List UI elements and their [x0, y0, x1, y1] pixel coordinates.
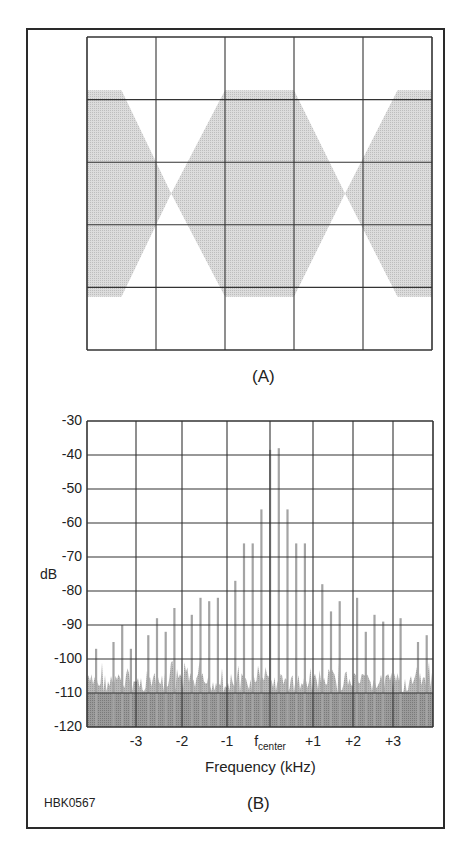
x-tick-label: -3 [116, 733, 156, 749]
spectral-line [234, 581, 236, 727]
spectral-line [304, 543, 306, 727]
spectral-line [130, 649, 132, 727]
y-tick-label: -80 [32, 582, 82, 598]
spectral-line [95, 649, 97, 727]
figure-id-label: HBK0567 [44, 796, 95, 810]
spectral-line [382, 622, 384, 727]
spectral-line [426, 635, 428, 727]
y-tick-label: -30 [32, 412, 82, 428]
spectral-line [173, 608, 175, 727]
spectral-line [295, 543, 297, 727]
spectral-line [121, 625, 123, 727]
spectral-line [356, 598, 358, 727]
spectral-line [112, 642, 114, 727]
y-tick-label: -90 [32, 616, 82, 632]
spectral-line [156, 618, 158, 727]
spectral-line [339, 601, 341, 727]
spectral-line [330, 611, 332, 727]
spectral-line [147, 635, 149, 727]
y-tick-label: -120 [32, 718, 82, 734]
spectral-line [243, 543, 245, 727]
x-tick-label: +3 [373, 733, 413, 749]
spectral-line [260, 509, 262, 727]
x-tick-label: +2 [333, 733, 373, 749]
spectral-line [373, 615, 375, 727]
panel-a-envelope-plot [87, 37, 432, 350]
y-tick-label: -100 [32, 650, 82, 666]
y-tick-label: -110 [32, 684, 82, 700]
floor-fill [87, 693, 433, 727]
x-tick-label: -2 [162, 733, 202, 749]
y-tick-label: -60 [32, 514, 82, 530]
panel-b-x-axis-label: Frequency (kHz) [205, 758, 316, 775]
spectral-line [321, 584, 323, 727]
panel-a-label: (A) [252, 367, 275, 387]
panel-b-spectrum-plot [87, 421, 433, 727]
x-tick-label: +1 [293, 733, 333, 749]
spectral-line [191, 615, 193, 727]
x-tick-label: fcenter [240, 733, 300, 752]
spectral-line [252, 543, 254, 727]
spectral-line [208, 601, 210, 727]
spectral-line [165, 632, 167, 727]
y-tick-label: -50 [32, 480, 82, 496]
spectral-line [199, 598, 201, 727]
spectral-line [217, 598, 219, 727]
envelope-area [87, 90, 432, 297]
panel-b-label: (B) [247, 794, 270, 814]
spectral-line [417, 642, 419, 727]
panel-b-y-axis-label: dB [40, 566, 57, 582]
spectral-line [286, 509, 288, 727]
spectral-line [400, 618, 402, 727]
spectral-line [365, 632, 367, 727]
spectral-line [278, 448, 280, 727]
y-tick-label: -40 [32, 446, 82, 462]
y-tick-label: -70 [32, 548, 82, 564]
